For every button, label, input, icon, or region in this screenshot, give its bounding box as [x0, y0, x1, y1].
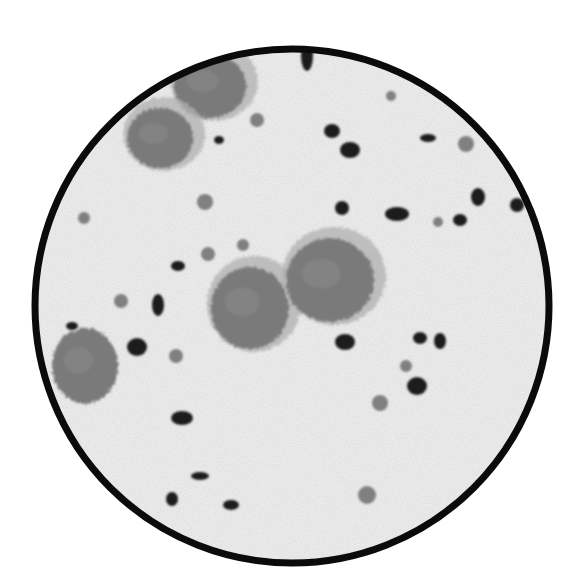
dark-nucleus [420, 134, 436, 142]
micrograph-scene [0, 0, 579, 586]
gray-cell [201, 247, 215, 261]
dark-nucleus [510, 198, 524, 212]
dark-nucleus [385, 207, 409, 221]
dark-nucleus [171, 261, 185, 271]
gray-cell [400, 360, 412, 372]
gray-cell [372, 395, 388, 411]
dark-nucleus [66, 322, 78, 330]
dark-nucleus [152, 294, 164, 316]
dark-nucleus [127, 338, 147, 356]
gray-cell [237, 239, 249, 251]
gray-cell [197, 194, 213, 210]
dark-nucleus [413, 332, 427, 344]
dark-nucleus [324, 124, 340, 138]
dark-nucleus [453, 214, 467, 226]
large-cell [52, 328, 118, 404]
dark-nucleus [335, 201, 349, 215]
gray-cell [78, 212, 90, 224]
gray-cell [114, 294, 128, 308]
large-cell [282, 227, 386, 325]
dark-nucleus [191, 472, 209, 480]
dark-nucleus [214, 136, 224, 144]
dark-nucleus [471, 188, 485, 206]
gray-cell [250, 113, 264, 127]
dark-nucleus [335, 334, 355, 350]
gray-cell [358, 486, 376, 504]
dark-nucleus [171, 411, 193, 425]
gray-cell [386, 91, 396, 101]
dark-nucleus [407, 377, 427, 395]
dark-nucleus [434, 333, 446, 349]
dark-nucleus [223, 500, 239, 510]
gray-cell [169, 349, 183, 363]
large-cell [123, 97, 205, 171]
dark-nucleus [340, 142, 360, 158]
gray-cell [458, 136, 474, 152]
gray-cell [433, 217, 443, 227]
dark-nucleus [166, 492, 178, 506]
